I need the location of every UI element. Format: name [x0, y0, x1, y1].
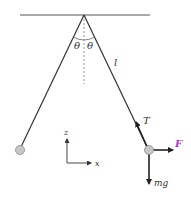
tension-arrow [136, 122, 148, 149]
pendulum-diagram: θ θ l T F mg z x [0, 0, 191, 201]
left-bob [16, 146, 25, 155]
left-string [20, 15, 84, 149]
theta-left-label: θ [74, 40, 80, 51]
weight-label: mg [154, 178, 169, 188]
x-axis-label: x [95, 159, 100, 168]
tension-label: T [143, 115, 151, 126]
length-label: l [114, 57, 117, 68]
z-axis-label: z [63, 128, 69, 137]
right-bob [145, 146, 154, 155]
force-F-label: F [174, 138, 183, 149]
theta-right-label: θ [87, 40, 93, 51]
